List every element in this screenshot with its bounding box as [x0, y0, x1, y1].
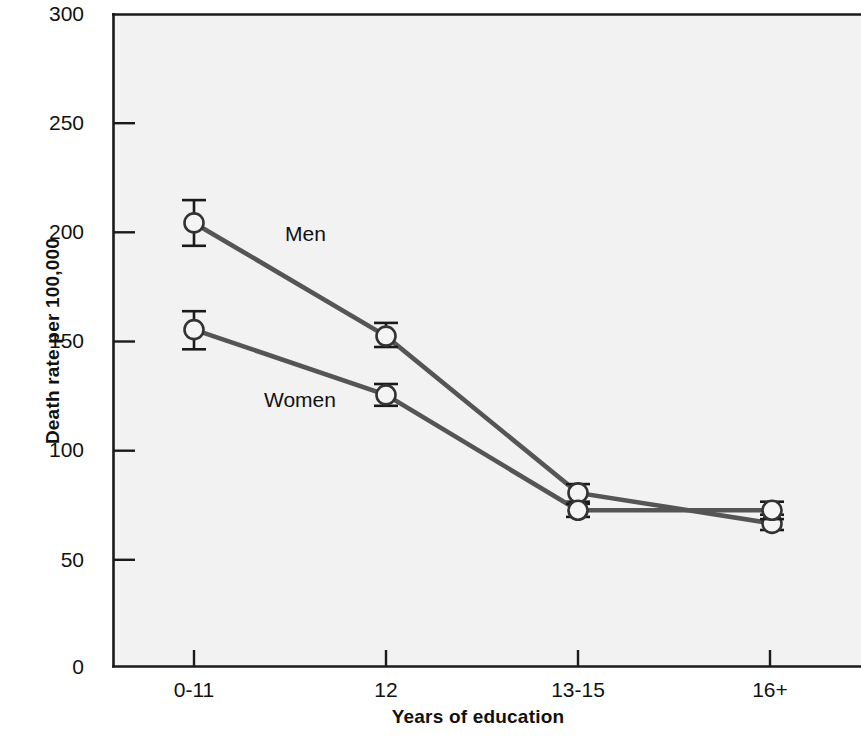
x-tick-label-13-15: 13-15	[518, 678, 638, 702]
x-tick-label-0-11: 0-11	[134, 678, 254, 702]
y-axis-title: Death rate per 100,000	[42, 226, 64, 456]
y-tick-label-300: 300	[6, 2, 84, 26]
x-tick-label-12: 12	[326, 678, 446, 702]
series-label-men: Men	[285, 222, 326, 246]
chart-figure: 300 250 200 150 100 50 0 0-11 12 13-15 1…	[0, 0, 861, 737]
y-tick-label-250: 250	[6, 111, 84, 135]
data-point	[763, 501, 782, 520]
x-tick-label-16plus: 16+	[710, 678, 830, 702]
data-point	[185, 320, 204, 339]
x-axis-title: Years of education	[95, 706, 861, 728]
series-label-women: Women	[264, 388, 336, 412]
data-point	[569, 501, 588, 520]
data-point	[377, 327, 396, 346]
data-point	[377, 385, 396, 404]
y-tick-label-50: 50	[6, 548, 84, 572]
data-point	[185, 213, 204, 232]
line-chart-plot	[0, 0, 861, 737]
y-tick-label-0: 0	[6, 655, 84, 679]
